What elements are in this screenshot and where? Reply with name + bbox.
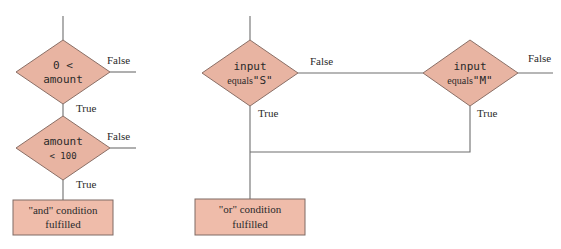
and-decision-1-false-label: False [107,54,130,66]
and-result-line1: "and" condition [28,204,98,216]
or-decision-2-true-label: True [477,107,497,119]
and-decision-1-true-label: True [76,102,96,114]
or-decision-2-false-label: False [528,52,551,64]
and-decision-2-line2: < 100 [49,151,76,161]
or-decision-2 [423,40,518,106]
or-decision-2-operator: equals [447,75,473,86]
flowchart-canvas: 0 < amount False True amount < 100 False… [0,0,561,249]
and-decision-2-true-label: True [76,178,96,190]
or-decision-2-value: "M" [473,74,493,87]
or-flow: input equals"S" False True input equals"… [195,16,553,235]
or-decision-1-line1: input [233,60,266,73]
and-decision-1-line1: 0 < [53,59,73,72]
or-result-line1: "or" condition [219,203,282,215]
and-decision-2-line1: amount [43,135,83,148]
or-decision-1 [202,40,298,106]
and-decision-1 [16,40,110,104]
or-decision-1-line2: equals"S" [227,74,272,87]
or-result-line2: fulfilled [232,218,268,230]
or-decision-2-line1: input [453,60,486,73]
or-decision-1-false-label: False [310,55,333,67]
and-decision-2-false-label: False [107,130,130,142]
or-decision-1-operator: equals [227,75,253,86]
or-decision-2-true-connector [250,106,470,152]
or-decision-2-line2: equals"M" [447,74,492,87]
or-decision-1-value: "S" [253,74,273,87]
and-decision-2 [16,116,110,180]
and-result-line2: fulfilled [45,218,81,230]
and-flow: 0 < amount False True amount < 100 False… [13,16,136,235]
and-decision-1-line2: amount [43,73,83,86]
or-decision-1-true-label: True [258,107,278,119]
